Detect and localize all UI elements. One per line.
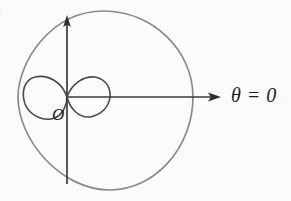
outer-oval-curve [18,11,193,190]
polar-curve-figure: i O θ = 0 [0,0,291,201]
figure-part-label: i [0,0,5,14]
origin-label: O [52,106,64,124]
polar-axis-label: θ = 0 [231,84,277,106]
